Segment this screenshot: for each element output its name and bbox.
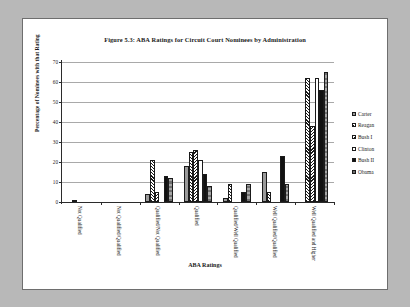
legend-label: Bush II <box>358 157 374 163</box>
bar-group <box>101 62 140 202</box>
bar-obama <box>285 184 290 202</box>
legend-item-bush-ii[interactable]: Bush II <box>352 154 374 166</box>
legend-item-carter[interactable]: Carter <box>352 108 374 120</box>
y-tick-label: 40 <box>53 119 58 125</box>
legend-label: Clinton <box>358 146 374 152</box>
bar-reagan <box>72 200 77 202</box>
x-tick-mark <box>295 202 296 205</box>
legend-swatch-icon <box>352 135 356 139</box>
x-category-label: Well Qualified and Higher <box>311 206 317 261</box>
bar-obama <box>324 72 329 202</box>
bar-group <box>217 62 256 202</box>
bar-group <box>256 62 295 202</box>
bar-obama <box>246 184 251 202</box>
legend-swatch-icon <box>352 170 356 174</box>
y-axis-title: Percentage of Nominees with that Rating <box>34 34 40 132</box>
legend-swatch-icon <box>352 158 356 162</box>
y-tick-label: 20 <box>53 159 58 165</box>
plot-area: 010203040506070 <box>62 62 334 202</box>
y-tick-mark <box>59 202 62 203</box>
bar-obama <box>168 178 173 202</box>
x-category-label: Well Qualified/Qualified <box>272 206 278 258</box>
y-tick-label: 60 <box>53 79 58 85</box>
bar-group <box>140 62 179 202</box>
chart-legend: CarterReaganBush IClintonBush IIObama <box>352 108 374 178</box>
x-category-label: Not Qualified/Qualified <box>116 206 122 256</box>
legend-swatch-icon <box>352 147 356 151</box>
legend-label: Obama <box>358 169 374 175</box>
x-category-label: Qualified/Well Qualified <box>233 206 239 258</box>
x-tick-mark <box>334 202 335 205</box>
bar-group <box>62 62 101 202</box>
x-axis-line <box>61 202 335 203</box>
x-category-label: Qualified <box>194 206 200 226</box>
bar-group <box>295 62 334 202</box>
legend-item-clinton[interactable]: Clinton <box>352 143 374 155</box>
y-tick-label: 0 <box>55 199 58 205</box>
x-tick-mark <box>179 202 180 205</box>
x-tick-mark <box>256 202 257 205</box>
chart-title: Figure 5.3: ABA Ratings for Circuit Cour… <box>23 36 387 43</box>
bar-obama <box>207 186 212 202</box>
x-tick-mark <box>101 202 102 205</box>
bar-reagan <box>267 192 272 202</box>
bar-reagan <box>228 184 233 202</box>
legend-label: Carter <box>358 111 371 117</box>
legend-item-bush-i[interactable]: Bush I <box>352 131 374 143</box>
x-tick-mark <box>140 202 141 205</box>
x-category-label: Qualified/Not Qualified <box>155 206 161 256</box>
legend-swatch-icon <box>352 112 356 116</box>
bar-bush-i <box>155 192 160 202</box>
bar-group <box>179 62 218 202</box>
legend-item-obama[interactable]: Obama <box>352 166 374 178</box>
legend-label: Bush I <box>358 134 372 140</box>
legend-label: Reagan <box>358 122 374 128</box>
legend-swatch-icon <box>352 123 356 127</box>
x-category-label: Not Qualified <box>77 206 83 235</box>
x-tick-mark <box>217 202 218 205</box>
y-tick-label: 10 <box>53 179 58 185</box>
y-tick-label: 70 <box>53 59 58 65</box>
legend-item-reagan[interactable]: Reagan <box>352 120 374 132</box>
y-tick-label: 50 <box>53 99 58 105</box>
x-axis-title: ABA Ratings <box>0 262 410 268</box>
y-tick-label: 30 <box>53 139 58 145</box>
